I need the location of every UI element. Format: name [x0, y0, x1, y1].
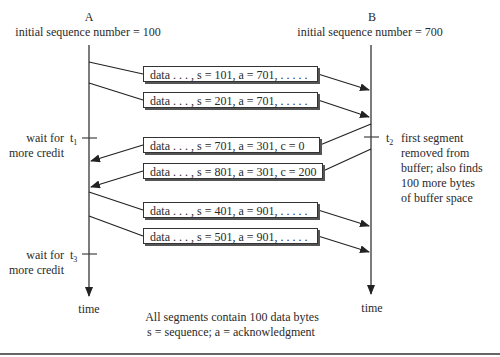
time-label-b: time [361, 301, 382, 315]
t2-label: t2 [386, 131, 393, 150]
host-b-label: B [368, 10, 376, 24]
segment-box: data . . . , s = 801, a = 301, c = 200 [143, 163, 323, 179]
caption-line1: All segments contain 100 data bytes [145, 310, 319, 324]
t3-label: t3 [70, 248, 77, 267]
t1-note-line2: more credit [0, 146, 64, 160]
time-label-a: time [78, 302, 99, 316]
segment-box: data . . . , s = 701, a = 301, c = 0 [143, 137, 320, 153]
t3-note-line1: wait for [0, 248, 64, 262]
t2-note: first segment removed from buffer; also … [401, 131, 483, 206]
segment-box: data . . . , s = 501, a = 901, . . . . . [143, 228, 318, 244]
host-b-initial-seq: initial sequence number = 700 [297, 25, 442, 39]
caption-line2: s = sequence; a = acknowledgment [147, 325, 315, 339]
t3-note-line2: more credit [0, 263, 64, 277]
t1-label: t1 [70, 131, 77, 150]
t1-note-line1: wait for [0, 131, 64, 145]
segment-box: data . . . , s = 101, a = 701, . . . . . [143, 66, 318, 82]
host-a-label: A [85, 10, 94, 24]
segment-box: data . . . , s = 401, a = 901, . . . . . [143, 202, 318, 218]
segment-box: data . . . , s = 201, a = 701, . . . . . [143, 92, 318, 108]
host-a-initial-seq: initial sequence number = 100 [15, 25, 160, 39]
bottom-divider [0, 353, 500, 355]
